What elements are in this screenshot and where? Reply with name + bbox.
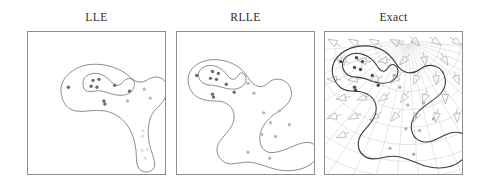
vector-arrowhead bbox=[391, 112, 400, 121]
vector-tail bbox=[417, 71, 419, 76]
vector-arrowhead bbox=[328, 39, 338, 47]
data-point bbox=[339, 60, 342, 63]
vector-arrowhead bbox=[441, 56, 448, 66]
data-point bbox=[260, 133, 263, 136]
data-point bbox=[274, 135, 277, 138]
plot-panel-exact bbox=[324, 31, 463, 175]
data-point bbox=[355, 56, 358, 59]
data-point bbox=[404, 127, 407, 130]
figure-container: LLE RLLE Exact bbox=[0, 0, 483, 185]
grid-radial-line bbox=[410, 43, 462, 174]
scatter-plot-exact bbox=[325, 32, 462, 174]
vector-arrowhead bbox=[454, 113, 461, 122]
vector-tail bbox=[378, 77, 383, 79]
vector-arrowhead bbox=[379, 93, 388, 101]
scatter-plot-lle bbox=[28, 32, 165, 174]
data-point bbox=[141, 135, 144, 138]
vector-tail bbox=[377, 44, 381, 46]
data-point bbox=[354, 89, 357, 92]
inner-contour bbox=[342, 53, 397, 83]
grid-radial-line bbox=[325, 43, 406, 174]
data-point bbox=[246, 151, 249, 154]
vector-tail bbox=[429, 37, 433, 40]
vector-arrowhead bbox=[369, 39, 379, 46]
data-point bbox=[97, 78, 100, 81]
vector-tail bbox=[410, 36, 413, 40]
data-point bbox=[371, 74, 374, 77]
vector-tail bbox=[386, 93, 390, 96]
data-point bbox=[377, 84, 380, 87]
data-point bbox=[141, 149, 144, 152]
data-point bbox=[209, 77, 212, 80]
data-points bbox=[67, 78, 152, 160]
vector-arrowhead bbox=[434, 113, 441, 123]
inner-contour bbox=[198, 65, 246, 89]
data-point bbox=[149, 96, 152, 99]
grid-radial-line bbox=[410, 43, 462, 174]
data-point bbox=[269, 121, 272, 124]
data-point bbox=[246, 82, 249, 85]
data-point bbox=[211, 70, 214, 73]
data-point bbox=[215, 78, 218, 81]
vector-arrowhead bbox=[401, 93, 409, 102]
vector-arrowhead bbox=[349, 39, 359, 46]
data-point bbox=[128, 89, 131, 92]
data-point bbox=[288, 123, 291, 126]
data-point bbox=[144, 157, 147, 160]
data-point bbox=[268, 157, 271, 160]
data-point bbox=[398, 86, 401, 89]
vector-arrowhead bbox=[414, 75, 420, 85]
data-point bbox=[262, 111, 265, 114]
vector-arrowhead bbox=[442, 94, 449, 103]
vector-tail bbox=[336, 115, 341, 116]
vector-arrowhead bbox=[433, 76, 440, 85]
data-point bbox=[225, 83, 228, 86]
data-point bbox=[412, 153, 415, 156]
vector-tail bbox=[454, 71, 456, 76]
vector-tail bbox=[398, 74, 402, 77]
data-point bbox=[392, 74, 395, 77]
panel-title-exact: Exact bbox=[324, 11, 463, 23]
data-point bbox=[353, 86, 356, 89]
data-point bbox=[95, 86, 98, 89]
data-point bbox=[211, 92, 214, 95]
vector-tail bbox=[387, 59, 392, 60]
data-point bbox=[102, 99, 105, 102]
plot-panel-rlle bbox=[176, 31, 315, 175]
vector-tail bbox=[345, 61, 350, 62]
data-point bbox=[252, 91, 255, 94]
vector-tail bbox=[366, 61, 371, 62]
data-point bbox=[361, 60, 364, 63]
data-point bbox=[406, 103, 409, 106]
data-point bbox=[195, 74, 198, 77]
grid-radial-line bbox=[330, 44, 406, 174]
grid-radial-line bbox=[325, 43, 406, 174]
scatter-plot-rlle bbox=[177, 32, 314, 174]
vector-arrowhead bbox=[337, 131, 347, 138]
data-point bbox=[422, 101, 425, 104]
data-point bbox=[212, 95, 215, 98]
data-point bbox=[113, 84, 116, 87]
data-point bbox=[126, 99, 129, 102]
vector-tail bbox=[406, 91, 409, 95]
panel-title-rlle: RLLE bbox=[176, 11, 315, 23]
data-point bbox=[217, 72, 220, 75]
vector-arrowhead bbox=[452, 37, 462, 45]
vector-arrowhead bbox=[453, 75, 459, 85]
vector-tail bbox=[450, 37, 454, 40]
data-point bbox=[353, 66, 356, 69]
vector-tail bbox=[437, 108, 438, 113]
data-point bbox=[432, 117, 435, 120]
data-point bbox=[67, 86, 70, 89]
outer-contour bbox=[188, 60, 314, 171]
inner-contour bbox=[83, 73, 135, 95]
data-point bbox=[146, 148, 149, 151]
plot-panel-lle bbox=[27, 31, 166, 175]
grid-radial-line bbox=[325, 42, 404, 139]
vector-tail bbox=[345, 132, 350, 134]
vector-tail bbox=[397, 110, 400, 114]
data-point bbox=[89, 85, 92, 88]
data-point bbox=[103, 102, 106, 105]
grid-radial-line bbox=[410, 43, 462, 174]
panel-title-lle: LLE bbox=[27, 11, 166, 23]
